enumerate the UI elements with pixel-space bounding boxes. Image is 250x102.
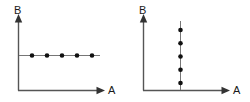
data-point bbox=[45, 53, 50, 58]
data-point bbox=[178, 41, 183, 46]
x-axis-label-left: A bbox=[108, 84, 116, 96]
two-panel-scatter-figure: B A bbox=[0, 0, 250, 102]
data-point bbox=[178, 81, 183, 86]
y-axis-right bbox=[140, 14, 147, 91]
data-point bbox=[30, 53, 35, 58]
data-point bbox=[75, 53, 80, 58]
x-axis-label-right: A bbox=[233, 84, 241, 96]
data-point bbox=[178, 67, 183, 72]
x-axis-left bbox=[18, 87, 105, 94]
y-axis-label-left: B bbox=[14, 4, 21, 16]
x-axis-arrowhead-icon-left bbox=[97, 87, 106, 94]
chart-panel-left: B A bbox=[14, 4, 116, 96]
y-axis-left bbox=[15, 14, 22, 91]
figure-canvas: B A bbox=[0, 0, 250, 102]
y-axis-label-right: B bbox=[139, 4, 146, 16]
x-axis-right bbox=[143, 87, 230, 94]
x-axis-arrowhead-icon-right bbox=[222, 87, 231, 94]
data-point bbox=[90, 53, 95, 58]
data-point bbox=[178, 28, 183, 33]
data-point bbox=[60, 53, 65, 58]
data-point bbox=[178, 54, 183, 59]
chart-panel-right: B A bbox=[139, 4, 241, 96]
